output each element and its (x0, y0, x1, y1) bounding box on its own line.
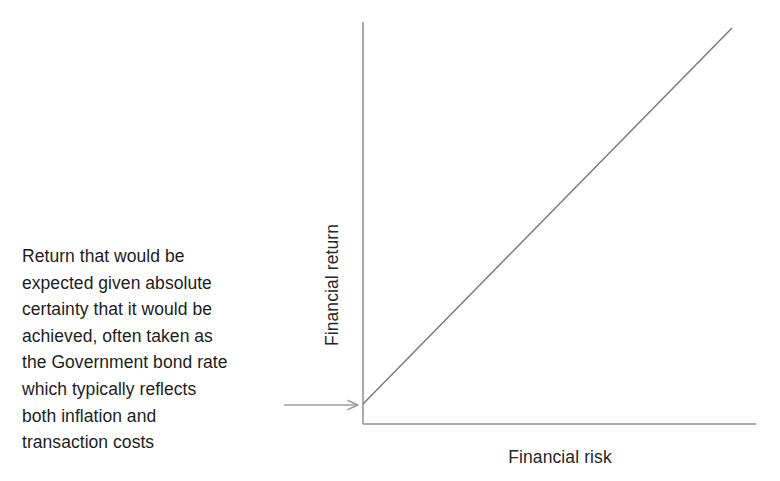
y-axis-label: Financial return (322, 224, 343, 346)
annotation-line: achieved, often taken as (22, 323, 282, 350)
figure-canvas: Return that would be expected given abso… (0, 0, 780, 481)
annotation-text: Return that would be expected given abso… (22, 243, 282, 456)
risk-return-chart (330, 0, 780, 481)
annotation-line: expected given absolute (22, 270, 282, 297)
annotation-line: both inflation and (22, 403, 282, 430)
annotation-line: certainty that it would be (22, 296, 282, 323)
risk-return-line (363, 28, 732, 404)
chart-plot-area (330, 0, 780, 481)
annotation-line: transaction costs (22, 429, 282, 456)
annotation-line: the Government bond rate (22, 349, 282, 376)
annotation-line: Return that would be (22, 243, 282, 270)
annotation-line: which typically reflects (22, 376, 282, 403)
x-axis-label: Financial risk (508, 447, 612, 468)
